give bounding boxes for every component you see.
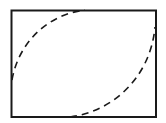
upper-left-dashed-arc bbox=[12, 10, 85, 80]
diagram-canvas bbox=[0, 0, 166, 123]
lower-right-dashed-arc bbox=[70, 27, 155, 117]
frame-rectangle bbox=[12, 11, 157, 118]
